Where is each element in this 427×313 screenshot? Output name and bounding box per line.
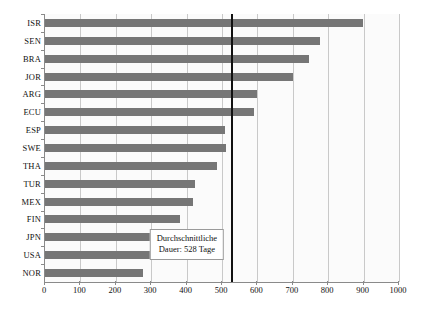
y-axis-tick-label: FIN [1,214,41,224]
bar-row [45,32,399,49]
y-axis-labels: ISRSENBRAJORARGECUESPSWETHATURMEXFINJPNU… [0,14,41,282]
y-axis-tick-label: TUR [1,179,41,189]
bar-row [45,15,399,32]
bar [45,73,293,81]
bar [45,108,254,116]
bar [45,37,320,45]
bar-row [45,265,399,282]
x-axis-tick-label: 700 [285,285,298,296]
bar-row [45,157,399,174]
bar [45,19,363,27]
y-axis-tick-label: USA [1,250,41,260]
bar-row [45,50,399,67]
x-axis-tick-label: 300 [144,285,157,296]
bar-row [45,211,399,228]
y-axis-tick-label: THA [1,161,41,171]
bar [45,144,226,152]
bar-row [45,104,399,121]
y-axis-tick-label: BRA [1,54,41,64]
y-axis-tick-label: ARG [1,89,41,99]
y-axis-tick-label: MEX [1,197,41,207]
x-axis-tick-label: 200 [108,285,121,296]
bar [45,126,225,134]
bar [45,269,143,277]
x-axis-tick-label: 100 [73,285,86,296]
bar [45,198,193,206]
x-axis-labels: 01002003004005006007008009001000 [44,285,398,301]
bar-row [45,193,399,210]
average-reference-line [231,14,233,282]
y-axis-tick-label: JPN [1,232,41,242]
bar-row [45,175,399,192]
x-axis-tick-label: 800 [321,285,334,296]
y-axis-tick-label: ECU [1,107,41,117]
x-axis-tick-label: 900 [356,285,369,296]
bar [45,162,217,170]
x-axis-tick-label: 0 [42,285,46,296]
x-axis-tick-label: 1000 [390,285,407,296]
bar-chart: ISRSENBRAJORARGECUESPSWETHATURMEXFINJPNU… [0,0,427,313]
x-axis-tick-label: 500 [215,285,228,296]
y-axis-tick-label: SWE [1,143,41,153]
bar [45,55,309,63]
bar [45,90,257,98]
bar [45,180,195,188]
bar-row [45,86,399,103]
bar-row [45,122,399,139]
y-axis-tick-label: SEN [1,36,41,46]
bar [45,251,151,259]
bar [45,215,180,223]
x-axis-tick-label: 400 [179,285,192,296]
annotation-line-1: Durchschnittliche [157,233,217,244]
annotation-line-2: Dauer: 528 Tage [157,244,217,255]
y-axis-tick-label: ESP [1,125,41,135]
y-axis-tick-label: ISR [1,18,41,28]
average-duration-annotation: Durchschnittliche Dauer: 528 Tage [150,229,224,260]
bar-row [45,140,399,157]
y-axis-tick-label: JOR [1,72,41,82]
y-axis-tick-label: NOR [1,268,41,278]
bar-row [45,68,399,85]
gridline [399,14,400,282]
x-axis-tick-label: 600 [250,285,263,296]
